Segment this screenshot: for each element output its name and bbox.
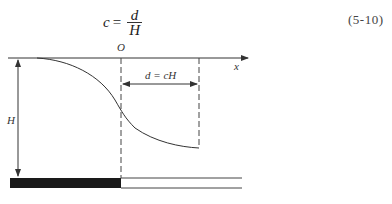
height-label: H — [6, 114, 16, 126]
x-axis-label: x — [233, 60, 239, 72]
origin-label: O — [117, 41, 125, 53]
mined-seam-bar — [10, 178, 121, 188]
subsidence-diagram: x O d = cH H — [0, 0, 392, 204]
distance-label: d = cH — [145, 69, 177, 81]
